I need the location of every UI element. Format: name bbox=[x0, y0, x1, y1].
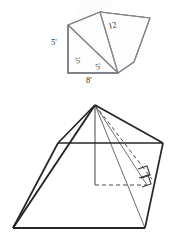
rectangular-pyramid-figure bbox=[0, 97, 173, 242]
pyramid-lateral-edge-back-right bbox=[95, 105, 163, 143]
pyramid-lateral-edge-back-left bbox=[58, 105, 95, 143]
prism-height-label: 5' bbox=[51, 37, 57, 47]
triangular-prism-figure: 5' 8' 5' 5' 12 bbox=[0, 0, 173, 95]
figure-canvas: 5' 8' 5' 5' 12 bbox=[0, 0, 173, 242]
prism-base-label: 8' bbox=[86, 75, 92, 85]
